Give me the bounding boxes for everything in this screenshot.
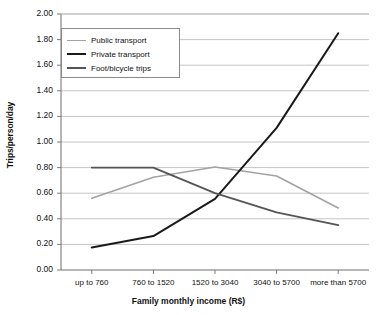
legend-swatch-public-transport <box>67 40 86 41</box>
x-axis-title: Family monthly income (R$) <box>0 296 377 306</box>
line-chart: 0.000.200.400.600.801.001.201.401.601.80… <box>0 0 377 315</box>
x-tick-label: more than 5700 <box>293 278 377 287</box>
legend: Public transport Private transport Foot/… <box>61 28 180 78</box>
y-tick-label: 0.80 <box>23 162 53 172</box>
y-tick-label: 1.80 <box>23 34 53 44</box>
legend-label-foot-bicycle-trips: Foot/bicycle trips <box>91 64 151 73</box>
y-tick-label: 1.60 <box>23 59 53 69</box>
y-tick-label: 1.20 <box>23 110 53 120</box>
legend-item-public-transport: Public transport <box>67 33 179 47</box>
y-tick-label: 1.40 <box>23 85 53 95</box>
legend-label-public-transport: Public transport <box>91 36 147 45</box>
legend-swatch-foot-bicycle-trips <box>67 67 86 69</box>
legend-swatch-private-transport <box>67 53 86 55</box>
y-tick-label: 0.40 <box>23 213 53 223</box>
legend-item-private-transport: Private transport <box>67 47 179 61</box>
x-tick-marks <box>92 270 338 274</box>
plot-area <box>0 0 377 315</box>
y-tick-label: 2.00 <box>23 8 53 18</box>
y-tick-label: 1.00 <box>23 136 53 146</box>
y-tick-label: 0.60 <box>23 187 53 197</box>
legend-label-private-transport: Private transport <box>91 50 150 59</box>
y-tick-label: 0.00 <box>23 264 53 274</box>
legend-item-foot-bicycle-trips: Foot/bicycle trips <box>67 61 179 75</box>
y-tick-label: 0.20 <box>23 238 53 248</box>
